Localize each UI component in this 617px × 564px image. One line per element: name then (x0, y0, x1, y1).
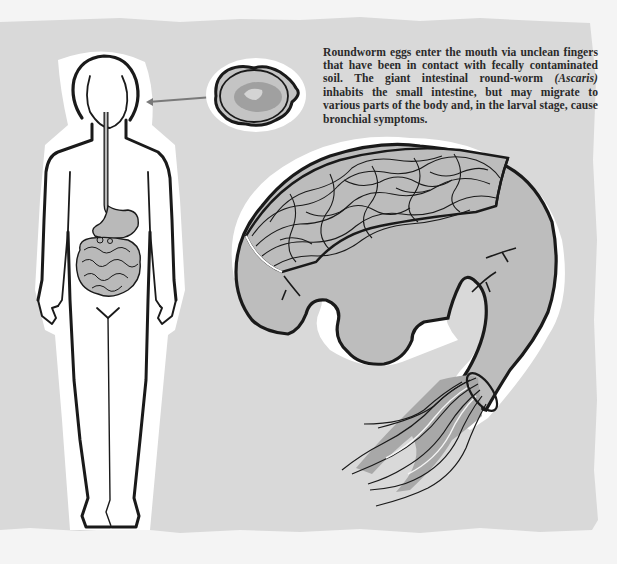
small-intestine (76, 237, 140, 296)
species-name: (Ascaris) (554, 72, 598, 85)
illustration-page: Roundworm eggs enter the mouth via uncle… (0, 0, 617, 564)
caption-part2: inhabits the small intestine, but may mi… (323, 86, 598, 126)
caption-text: Roundworm eggs enter the mouth via uncle… (323, 46, 598, 126)
